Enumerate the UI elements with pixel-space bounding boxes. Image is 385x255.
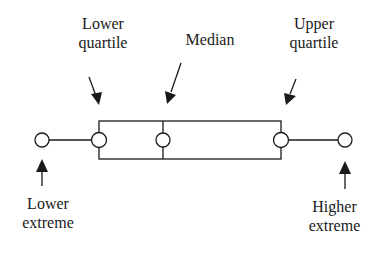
upper-quartile-label: Upper quartile <box>279 14 349 52</box>
lower-extreme-label-line2: extreme <box>8 213 88 232</box>
median-point <box>156 133 170 147</box>
higher-extreme-label: Higher extreme <box>292 197 377 235</box>
upper-quartile-label-line2: quartile <box>279 33 349 52</box>
higher-extreme-label-line1: Higher <box>292 197 377 216</box>
lower-extreme-arrow-icon <box>36 159 48 186</box>
lower-extreme-point <box>35 133 49 147</box>
upper-quartile-point <box>274 133 289 148</box>
lower-extreme-label-line1: Lower <box>8 194 88 213</box>
lower-quartile-point <box>92 133 107 148</box>
interquartile-box <box>99 121 281 159</box>
median-label: Median <box>175 30 245 49</box>
lower-quartile-label-line1: Lower <box>68 14 138 33</box>
upper-quartile-label-line1: Upper <box>279 14 349 33</box>
median-label-line1: Median <box>175 30 245 49</box>
lower-quartile-label-line2: quartile <box>68 33 138 52</box>
higher-extreme-arrow-icon <box>339 161 351 189</box>
lower-quartile-label: Lower quartile <box>68 14 138 52</box>
higher-extreme-point <box>338 133 352 147</box>
lower-extreme-label: Lower extreme <box>8 194 88 232</box>
median-arrow-icon <box>165 63 181 104</box>
higher-extreme-label-line2: extreme <box>292 216 377 235</box>
lower-quartile-arrow-icon <box>89 77 102 105</box>
upper-quartile-arrow-icon <box>284 79 296 105</box>
